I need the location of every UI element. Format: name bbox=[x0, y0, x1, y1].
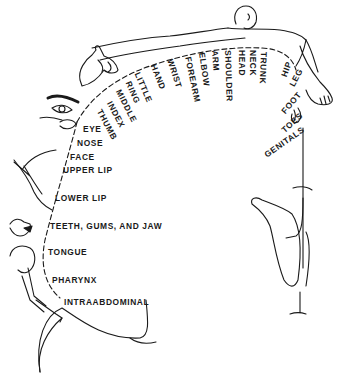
label-teeth-gums-jaw: TEETH, GUMS, AND JAW bbox=[50, 222, 162, 230]
lower-right-shape bbox=[252, 198, 300, 286]
label-upper-lip: UPPER LIP bbox=[63, 166, 113, 174]
label-lower-lip: LOWER LIP bbox=[55, 194, 107, 202]
label-nose: NOSE bbox=[77, 139, 103, 147]
label-arm: ARM bbox=[211, 50, 221, 71]
homunculus-drawing bbox=[0, 0, 343, 377]
label-intraabdominal: INTRAABDOMINAL bbox=[64, 298, 149, 306]
label-head: HEAD bbox=[238, 50, 246, 76]
cortex-outline bbox=[39, 300, 148, 372]
nose bbox=[60, 120, 76, 129]
arm-outline bbox=[92, 28, 228, 48]
tongue-shape bbox=[10, 246, 35, 273]
label-eye: EYE bbox=[83, 125, 102, 133]
label-face: FACE bbox=[70, 153, 95, 161]
label-trunk: TRUNK bbox=[258, 52, 268, 85]
eyebrow bbox=[48, 96, 78, 102]
homunculus-figure: THUMB INDEX MIDDLE RING LITTLE HAND WRIS… bbox=[0, 0, 343, 377]
label-neck: NECK bbox=[249, 50, 257, 76]
label-pharynx: PHARYNX bbox=[52, 276, 97, 284]
torso-lower bbox=[39, 318, 62, 372]
pharynx-shape bbox=[22, 268, 46, 312]
label-tongue: TONGUE bbox=[48, 248, 87, 256]
lips bbox=[14, 162, 42, 194]
head-outline bbox=[235, 6, 257, 29]
hand-outline bbox=[80, 46, 118, 86]
label-shoulder: SHOULDER bbox=[224, 50, 234, 102]
